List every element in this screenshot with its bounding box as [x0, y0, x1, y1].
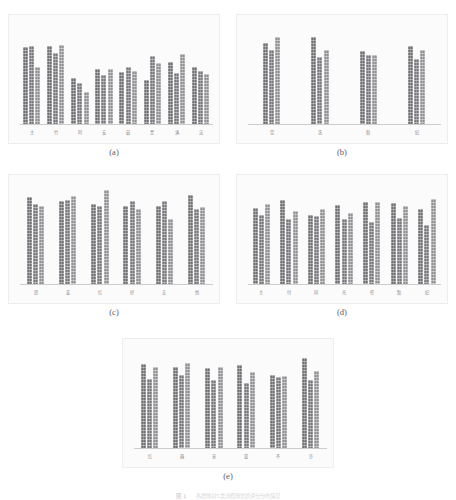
bar	[275, 37, 280, 124]
bar	[420, 50, 425, 124]
bar	[259, 215, 264, 284]
bar	[150, 56, 155, 124]
bar-group	[68, 25, 92, 124]
panel-e-plot: 红器来量不许	[122, 338, 334, 468]
bar	[270, 375, 275, 448]
axis-tick-label: 法	[189, 130, 213, 136]
bar	[168, 219, 173, 284]
bar	[335, 205, 340, 284]
axis-tick-label: 许	[295, 454, 327, 460]
bar	[91, 204, 96, 284]
panel-b: 党洗取纪 (b)	[236, 14, 448, 166]
axis-tick-label: 取	[344, 130, 392, 136]
axis-tick-label: 不	[262, 454, 294, 460]
axis-tick-label: 付	[275, 290, 303, 296]
bar-group	[198, 349, 230, 448]
bar	[47, 46, 52, 124]
bar	[244, 383, 249, 448]
panel-c-bars	[20, 185, 213, 284]
bar-group	[116, 185, 148, 284]
bar	[59, 201, 64, 284]
bar	[308, 215, 313, 284]
bar	[156, 206, 161, 284]
bar	[153, 367, 158, 448]
bar	[23, 47, 28, 124]
bar	[204, 74, 209, 124]
axis-tick-label: 来	[198, 454, 230, 460]
bar	[286, 219, 291, 284]
bar	[141, 364, 146, 448]
bar	[403, 206, 408, 284]
bar-group	[140, 25, 164, 124]
bar	[324, 50, 329, 124]
bar-group	[166, 349, 198, 448]
bar	[375, 202, 380, 284]
bar	[59, 45, 64, 124]
bar	[97, 206, 102, 284]
panel-b-plot: 党洗取纪	[236, 14, 448, 144]
panel-d-plot-area: 主付同光任點纪	[237, 175, 447, 303]
bar	[431, 199, 436, 284]
bar	[314, 216, 319, 284]
bar	[372, 55, 377, 124]
bar	[369, 222, 374, 284]
bar-group	[358, 185, 386, 284]
bar	[342, 219, 347, 284]
axis-tick-label: 阿	[68, 130, 92, 136]
bar-group	[164, 25, 188, 124]
panel-d: 主付同光任點纪 (d)	[236, 174, 448, 326]
bar	[263, 43, 268, 124]
panel-a-bars	[20, 25, 213, 124]
panel-e-caption: (e)	[122, 471, 334, 482]
bar	[280, 200, 285, 284]
bar	[424, 225, 429, 284]
axis-tick-label: 悦	[181, 290, 213, 296]
bar	[174, 73, 179, 124]
bar	[188, 195, 193, 284]
bar-group	[330, 185, 358, 284]
bar	[363, 202, 368, 284]
axis-tick-label: 夫	[148, 290, 180, 296]
bar	[27, 197, 32, 284]
bar	[136, 209, 141, 284]
axis-tick-label: 光	[330, 290, 358, 296]
bar	[108, 69, 113, 124]
bar	[311, 37, 316, 124]
bar-group	[134, 349, 166, 448]
panel-e-plot-area: 红器来量不许	[123, 339, 333, 467]
panel-d-axis	[248, 284, 441, 285]
axis-tick-label: 主	[20, 130, 44, 136]
bar	[71, 78, 76, 124]
bar	[39, 206, 44, 284]
panel-a-plot-area: 主竹阿安菇至满法	[9, 15, 219, 143]
panel-d-ticks: 主付同光任點纪	[248, 290, 441, 296]
bar	[314, 371, 319, 448]
panel-b-bars	[248, 25, 441, 124]
bar	[101, 75, 106, 125]
bar-group	[180, 185, 212, 284]
bar	[179, 375, 184, 448]
bar	[276, 377, 281, 448]
bar	[397, 218, 402, 284]
bar-group	[262, 349, 294, 448]
bar-group	[248, 185, 276, 284]
panel-c-plot: 怨董红好夫悦	[8, 174, 220, 304]
axis-tick-label: 红	[134, 454, 166, 460]
axis-tick-label: 董	[52, 290, 84, 296]
panel-a-plot: 主竹阿安菇至满法	[8, 14, 220, 144]
axis-tick-label: 同	[303, 290, 331, 296]
bar-group	[230, 349, 262, 448]
panel-c-plot-area: 怨董红好夫悦	[9, 175, 219, 303]
bar	[71, 196, 76, 284]
panel-e-ticks: 红器来量不许	[134, 454, 327, 460]
bar	[308, 380, 313, 448]
bar	[65, 200, 70, 284]
bar-group	[385, 185, 413, 284]
axis-tick-label: 量	[230, 454, 262, 460]
bar	[35, 67, 40, 124]
bar-group	[188, 25, 212, 124]
bar-group	[392, 25, 440, 124]
panel-c-ticks: 怨董红好夫悦	[20, 290, 213, 296]
bar	[185, 363, 190, 448]
axis-tick-label: 红	[84, 290, 116, 296]
